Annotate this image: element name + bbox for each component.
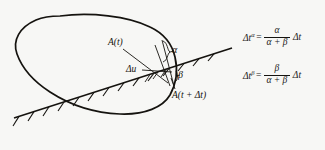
equals-sign: = xyxy=(256,32,261,42)
equation-lhs-base: Δt xyxy=(243,33,251,43)
equation-lhs: Δtβ xyxy=(243,69,254,81)
equation-tail: Δt xyxy=(293,32,301,42)
equals-sign: = xyxy=(256,70,261,80)
figure-canvas: A(t) α Δu β A(t + Δt) Δtα = α α + β Δt Δ… xyxy=(0,0,325,150)
label-curve-point-start: A(t) xyxy=(108,38,123,48)
label-angle-alpha: α xyxy=(172,45,177,55)
fraction-denominator: α + β xyxy=(265,38,290,48)
closed-curve-group xyxy=(16,14,177,114)
equation-lhs-base: Δt xyxy=(243,71,251,81)
inclined-boundary-line xyxy=(14,48,232,118)
equation-delta-t-alpha: Δtα = α α + β Δt xyxy=(243,24,325,50)
equation-lhs: Δtα xyxy=(243,31,255,43)
fraction-denominator: α + β xyxy=(264,76,289,86)
label-angle-beta: β xyxy=(178,70,183,80)
label-increment-delta-u: Δu xyxy=(126,65,136,75)
label-curve-point-end: A(t + Δt) xyxy=(172,91,206,101)
fraction-numerator: α xyxy=(273,26,282,36)
fraction: β α + β xyxy=(264,64,290,86)
equation-block: Δtα = α α + β Δt Δtβ = β α + β Δt xyxy=(243,24,325,88)
equation-tail: Δt xyxy=(293,70,301,80)
closed-curve-blob xyxy=(16,14,177,114)
fraction: α α + β xyxy=(264,26,290,48)
equation-lhs-exponent: α xyxy=(251,31,254,38)
fraction-numerator: β xyxy=(272,64,281,74)
equation-delta-t-beta: Δtβ = β α + β Δt xyxy=(243,62,325,88)
equation-lhs-exponent: β xyxy=(251,69,254,76)
sliver-edge-left xyxy=(155,45,170,86)
